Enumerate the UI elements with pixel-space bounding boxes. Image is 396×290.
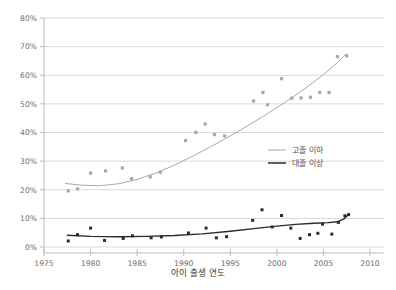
data-point bbox=[251, 219, 254, 222]
data-point bbox=[316, 232, 319, 235]
data-point bbox=[336, 55, 339, 58]
x-tick-label: 2010 bbox=[360, 259, 379, 268]
data-point bbox=[67, 189, 70, 192]
chart-legend: 고졸 이하대졸 이상 bbox=[268, 145, 324, 168]
x-tick-labels: 19751980198519901995200020052010 bbox=[34, 259, 380, 268]
data-point bbox=[225, 235, 228, 238]
data-point bbox=[89, 172, 92, 175]
x-axis-title: 아이 출생 연도 bbox=[171, 268, 224, 278]
y-tick-labels: 0%10%20%30%40%50%60%70%80% bbox=[20, 14, 44, 252]
data-point bbox=[76, 233, 79, 236]
data-point bbox=[223, 134, 226, 137]
data-point bbox=[149, 175, 152, 178]
x-tick-label: 2000 bbox=[267, 259, 286, 268]
data-point bbox=[150, 236, 153, 239]
data-point bbox=[76, 187, 79, 190]
trendline-2 bbox=[67, 214, 348, 236]
data-point bbox=[299, 237, 302, 240]
y-tick-label: 50% bbox=[20, 100, 37, 109]
x-tick-label: 1990 bbox=[174, 259, 193, 268]
y-tick-label: 80% bbox=[20, 14, 37, 23]
y-tick-label: 70% bbox=[20, 42, 37, 51]
data-point bbox=[327, 91, 330, 94]
data-point bbox=[271, 225, 274, 228]
data-point bbox=[131, 234, 134, 237]
data-point bbox=[330, 233, 333, 236]
data-point bbox=[299, 96, 302, 99]
scatter-chart: 0%10%20%30%40%50%60%70%80% 1975198019851… bbox=[0, 0, 396, 290]
x-tick-label: 1975 bbox=[34, 259, 53, 268]
data-point bbox=[103, 239, 106, 242]
data-point bbox=[345, 54, 348, 57]
chart-container: 0%10%20%30%40%50%60%70%80% 1975198019851… bbox=[0, 0, 396, 290]
data-point bbox=[252, 99, 255, 102]
data-point bbox=[280, 77, 283, 80]
data-point bbox=[67, 239, 70, 242]
data-point bbox=[266, 103, 269, 106]
legend-label-2: 대졸 이상 bbox=[292, 158, 324, 168]
gridlines bbox=[44, 18, 384, 247]
y-tick-label: 10% bbox=[20, 214, 37, 223]
data-point bbox=[318, 91, 321, 94]
y-tick-label: 20% bbox=[20, 186, 37, 195]
x-tick-label: 1985 bbox=[127, 259, 146, 268]
x-tick-label: 1995 bbox=[221, 259, 240, 268]
data-point bbox=[187, 231, 190, 234]
data-point bbox=[160, 235, 163, 238]
y-tick-label: 0% bbox=[25, 243, 37, 252]
data-point bbox=[121, 166, 124, 169]
data-point bbox=[205, 227, 208, 230]
data-point bbox=[215, 236, 218, 239]
data-point bbox=[289, 227, 292, 230]
data-point bbox=[347, 213, 350, 216]
x-tick-label: 1980 bbox=[81, 259, 100, 268]
data-point bbox=[260, 208, 263, 211]
data-point bbox=[321, 223, 324, 226]
data-point bbox=[204, 122, 207, 125]
data-point bbox=[194, 131, 197, 134]
data-point bbox=[343, 214, 346, 217]
legend-label-1: 고졸 이하 bbox=[292, 145, 324, 155]
y-tick-label: 60% bbox=[20, 71, 37, 80]
data-point bbox=[184, 139, 187, 142]
data-point bbox=[280, 214, 283, 217]
y-tick-label: 30% bbox=[20, 157, 37, 166]
data-point bbox=[213, 133, 216, 136]
data-point bbox=[308, 233, 311, 236]
data-point bbox=[104, 169, 107, 172]
y-tick-label: 40% bbox=[20, 128, 37, 137]
x-tick-label: 2005 bbox=[314, 259, 333, 268]
x-axis-line bbox=[44, 249, 384, 256]
data-point bbox=[122, 237, 125, 240]
data-point bbox=[159, 171, 162, 174]
data-point bbox=[89, 227, 92, 230]
data-point bbox=[337, 221, 340, 224]
data-point bbox=[290, 97, 293, 100]
data-point bbox=[130, 177, 133, 180]
data-point bbox=[309, 96, 312, 99]
data-point bbox=[261, 91, 264, 94]
